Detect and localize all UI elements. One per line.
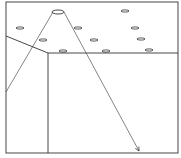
object-ellipse [59, 50, 67, 52]
object-ellipse [145, 49, 153, 51]
object-ellipse [121, 10, 129, 12]
outer-frame [6, 2, 178, 153]
diagram-canvas [0, 0, 181, 158]
scattered-objects [16, 10, 153, 52]
object-ellipse [16, 27, 24, 29]
beam-right-edge [64, 12, 139, 151]
object-ellipse [131, 27, 139, 29]
diagram-figure [0, 0, 181, 158]
object-ellipse [74, 27, 82, 29]
object-ellipse [102, 50, 110, 52]
source-ellipse [52, 10, 64, 14]
object-ellipse [39, 39, 47, 41]
object-ellipse [137, 38, 145, 40]
object-ellipse [90, 39, 98, 41]
